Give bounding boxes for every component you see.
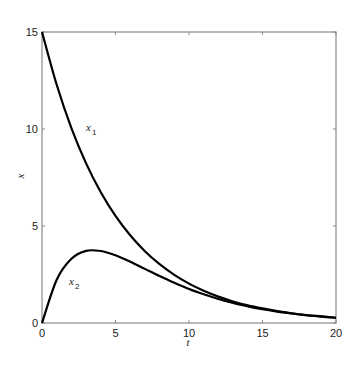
curve-x1 bbox=[42, 32, 336, 318]
series-label-x1: x1 bbox=[85, 121, 97, 137]
y-axis-label: x bbox=[14, 173, 26, 179]
x-tick-label: 20 bbox=[330, 327, 342, 339]
x-tick-label: 0 bbox=[39, 327, 45, 339]
labels: x1x2 bbox=[68, 121, 97, 291]
y-tick-label: 15 bbox=[26, 26, 38, 38]
series-label-x2: x2 bbox=[68, 275, 80, 291]
x-tick-label: 5 bbox=[112, 327, 118, 339]
x-tick-label: 15 bbox=[256, 327, 268, 339]
data-curves bbox=[42, 32, 336, 323]
y-tick-label: 0 bbox=[32, 317, 38, 329]
line-chart: 05101520051015 x1x2 t x bbox=[0, 0, 363, 365]
y-tick-label: 10 bbox=[26, 123, 38, 135]
svg-text:x: x bbox=[68, 275, 74, 287]
svg-text:x: x bbox=[85, 121, 91, 133]
plot-frame bbox=[42, 32, 336, 323]
curve-x2 bbox=[42, 250, 336, 323]
svg-text:1: 1 bbox=[92, 128, 97, 137]
plot-border bbox=[42, 32, 336, 323]
y-tick-label: 5 bbox=[32, 220, 38, 232]
axis-ticks: 05101520051015 bbox=[26, 26, 342, 339]
svg-text:2: 2 bbox=[75, 282, 80, 291]
